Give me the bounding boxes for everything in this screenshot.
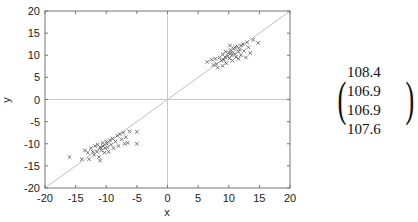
x-marker [80,157,84,161]
x-marker [103,151,107,155]
x-marker [86,151,90,155]
x-marker [215,62,219,66]
x-marker [123,142,127,146]
x-marker [251,38,255,42]
covariance-matrix: ( 108.4 106.9 106.9 107.6 ) [334,76,418,126]
y-tick-label: 20 [28,5,40,17]
matrix-row-2: 106.9 107.6 [347,101,405,139]
x-marker [210,58,214,62]
x-marker [97,155,101,159]
x-marker [216,66,220,70]
y-tick-label: 5 [34,71,40,83]
right-paren: ) [406,75,415,123]
x-marker [117,144,121,148]
matrix-cell: 108.4 [347,64,381,80]
data-points [68,38,260,162]
x-marker [83,149,87,153]
x-tick-label: -15 [68,192,84,204]
plot-area [45,11,290,188]
y-tick-label: 0 [34,94,40,106]
x-marker [101,141,105,145]
x-tick-label: -5 [132,192,142,204]
x-marker [135,130,139,134]
matrix-cell: 106.9 [347,102,381,118]
x-marker [231,59,235,63]
x-marker [228,44,232,48]
x-marker [218,56,222,60]
x-marker [237,57,241,61]
x-marker [68,155,72,159]
x-tick-label: 0 [164,192,170,204]
x-axis-label: x [164,206,170,218]
x-marker [118,132,122,136]
x-marker [244,56,248,60]
y-tick-label: -5 [30,116,40,128]
x-marker [228,57,232,61]
x-marker [256,41,260,45]
x-marker [248,51,252,55]
y-tick-label: -20 [24,182,40,194]
x-tick-label: 15 [253,192,265,204]
x-marker [213,57,217,61]
x-marker [225,61,229,65]
y-tick-label: -10 [24,138,40,150]
x-marker [206,60,210,64]
x-marker [115,134,119,138]
x-marker [87,157,91,161]
y-tick-label: 10 [28,49,40,61]
x-marker [124,135,128,139]
x-marker [239,53,243,57]
x-tick-label: 20 [284,192,296,204]
matrix-row-1: 108.4 106.9 [347,63,405,101]
matrix-cell: 107.6 [347,121,381,137]
x-marker [120,138,124,142]
y-axis-label: y [0,97,12,103]
y-tick-label: -15 [24,160,40,172]
x-marker [128,130,132,134]
x-marker [92,153,96,157]
x-tick-label: 10 [223,192,235,204]
x-marker [109,143,113,147]
x-marker [221,64,225,68]
matrix-cell: 106.9 [347,83,381,99]
x-tick-label: -10 [98,192,114,204]
x-marker [89,146,93,150]
x-marker [242,49,246,53]
x-marker [114,140,118,144]
y-tick-label: 15 [28,27,40,39]
x-marker [135,142,139,146]
x-marker [126,141,130,145]
x-marker [247,45,251,49]
x-marker [98,159,102,163]
x-marker [107,150,111,154]
x-marker [234,55,238,59]
left-paren: ( [338,75,347,123]
x-tick-label: 5 [195,192,201,204]
scatter-plot: -20-15-10-505101520-20-15-10-505101520 x… [0,0,330,222]
x-marker [112,146,116,150]
